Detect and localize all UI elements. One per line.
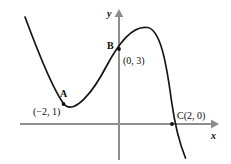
cubic-function-graph <box>0 0 231 164</box>
point-marker-c <box>170 122 174 126</box>
point-coords-c: C(2, 0) <box>177 111 205 121</box>
x-axis-label: x <box>211 131 216 141</box>
point-marker-a <box>62 102 66 106</box>
point-label-b: B <box>107 41 114 51</box>
y-axis-label: y <box>107 9 111 19</box>
point-marker-b <box>117 47 121 51</box>
point-coords-b: (0, 3) <box>123 56 145 66</box>
chart-background <box>0 0 231 164</box>
point-label-a: A <box>60 89 67 99</box>
point-coords-a: (−2, 1) <box>33 107 60 117</box>
